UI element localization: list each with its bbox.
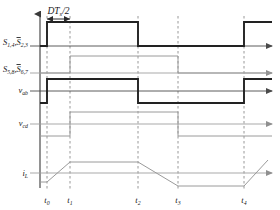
trace-label-s14-s23-gate: S1,4​,S2,3​ [3,37,28,48]
waveform-s58-s67-gate [40,56,272,73]
trace-label-s58-s67-gate: S5,8​,S6,7​ [3,64,29,75]
trace-label-il-current: iL​ [22,168,28,179]
time-tick-label-t3: t3 [175,195,180,206]
dts-span-label: DTs/2 [46,6,69,17]
dts-span-annotation: DTs/2 [46,6,70,19]
time-tick-label-t1: t1 [67,195,72,206]
trace-baselines [30,46,272,173]
time-tick-label-t0: t0 [44,195,49,206]
waveform-traces [40,22,272,186]
time-tick-label-t4: t4 [241,195,246,206]
timing-diagram-figure: DTs/2 S1,4​,S2,3​S5,8​,S6,7​vab​vcd​iL​t… [0,0,280,210]
waveform-s14-s23-gate [40,22,272,46]
trace-label-vcd-voltage: vcd​ [19,118,28,129]
diagram-canvas: DTs/2 S1,4​,S2,3​S5,8​,S6,7​vab​vcd​iL​t… [0,0,280,210]
time-tick-label-t2: t2 [135,195,140,206]
trace-label-vab-voltage: vab​ [18,85,28,96]
